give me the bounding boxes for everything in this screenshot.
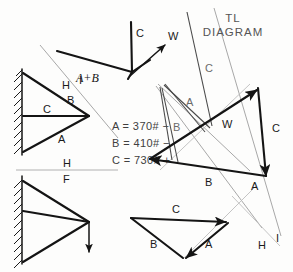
divider-label-f: F: [63, 173, 70, 185]
bottom-label-b: B: [150, 238, 157, 250]
polygon-label-b: B: [205, 176, 212, 188]
wall-hatching-upper: [14, 70, 22, 154]
vector-joint-stub: [132, 60, 150, 72]
bottom-label-c: C: [172, 203, 180, 215]
label-top-c: C: [136, 27, 144, 39]
ray-label-i-lower: I: [276, 232, 279, 244]
truss-member-bottom-lower: [23, 222, 89, 262]
polygon-ray-label-b: B: [173, 121, 180, 133]
diagram-canvas: TL DIAGRAM A+B C W: [0, 0, 293, 272]
title-line-1: TL: [225, 12, 240, 24]
force-value-a: A = 370# −: [112, 120, 169, 132]
title-line-2: DIAGRAM: [203, 26, 264, 38]
ray-labels-lower-right: H I: [258, 232, 279, 251]
bottom-label-a: A: [205, 238, 213, 250]
vector-c-member: [131, 22, 132, 72]
section-divider: H F: [16, 157, 118, 185]
polygon-label-c: C: [272, 122, 280, 134]
top-vector-group: A+B C W: [57, 22, 179, 85]
ray-label-h-lower: H: [258, 239, 266, 251]
force-value-b: B = 410# −: [112, 137, 170, 149]
truss-member-a-upper: [23, 116, 89, 152]
label-truss-b-upper: B: [67, 94, 74, 106]
wall-hatching-lower: [14, 180, 22, 268]
polygon-ray-label-a: A: [186, 96, 194, 108]
polygon-ray-label-c: C: [205, 62, 213, 74]
label-truss-a-upper: A: [58, 133, 66, 145]
polygon-label-a: A: [251, 180, 259, 192]
bottom-force-triangle: C B A: [131, 203, 228, 258]
divider-label-h: H: [63, 157, 71, 169]
label-truss-c-upper: C: [43, 103, 51, 115]
space-diagram-lower: [14, 176, 89, 268]
polygon-label-w: W: [222, 118, 233, 130]
bottom-vector-c: [131, 218, 226, 222]
ray-label-h-upper: H: [62, 79, 70, 91]
vector-a-plus-b: [57, 51, 132, 72]
ray-label-i-upper: I: [79, 74, 82, 86]
tl-diagram-page: TL DIAGRAM A+B C W: [0, 0, 293, 272]
polygon-vector-b: [150, 159, 266, 176]
ray-light-cross: [232, 196, 280, 246]
label-top-w: W: [168, 30, 179, 42]
force-values-block: A = 370# − B = 410# − C = 730# +: [112, 120, 170, 166]
